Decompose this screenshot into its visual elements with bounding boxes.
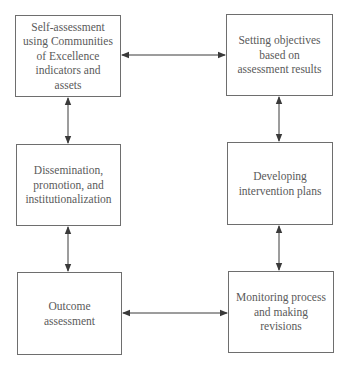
node-self-assessment-label: Self-assessment using Communities of Exc… [23,20,113,93]
node-setting-objectives-label: Setting objectives based on assessment r… [237,33,321,77]
node-developing-plans-label: Developing intervention plans [239,169,322,198]
node-outcome-assessment-label: Outcome assessment [44,299,95,328]
node-developing-plans: Developing intervention plans [227,142,333,225]
node-self-assessment: Self-assessment using Communities of Exc… [15,15,121,97]
node-dissemination-label: Dissemination, promotion, and institutio… [25,163,111,207]
node-setting-objectives: Setting objectives based on assessment r… [226,14,333,96]
node-monitoring-label: Monitoring process and making revisions [236,290,326,334]
cycle-diagram: Self-assessment using Communities of Exc… [0,0,350,369]
node-dissemination: Dissemination, promotion, and institutio… [16,144,121,226]
node-outcome-assessment: Outcome assessment [17,272,122,355]
node-monitoring: Monitoring process and making revisions [228,271,334,353]
